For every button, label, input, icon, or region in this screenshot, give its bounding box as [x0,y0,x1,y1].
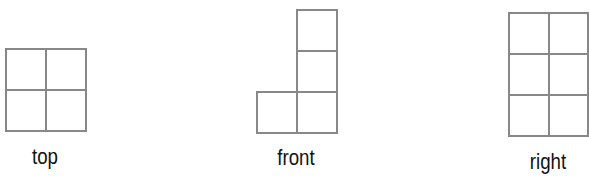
front-cell-r2-c1 [296,91,338,134]
front-cell-r0-c1 [296,9,338,52]
top-cell-r1-c1 [45,89,87,132]
right-cell-r0-c0 [508,12,550,55]
top-cell-r0-c1 [45,48,87,91]
right-cell-r0-c1 [548,12,589,55]
right-cell-r1-c0 [508,53,550,96]
right-cell-r1-c1 [548,53,589,96]
front-view-grid [256,9,338,134]
top-view-grid [5,48,87,132]
right-cell-r2-c0 [508,94,550,137]
right-view-label: right [530,151,566,173]
top-view-label: top [32,146,58,168]
front-cell-r1-c1 [296,50,338,93]
front-view-label: front [277,147,314,169]
top-cell-r0-c0 [5,48,47,91]
top-cell-r1-c0 [5,89,47,132]
front-cell-r2-c0 [256,91,298,134]
right-cell-r2-c1 [548,94,589,137]
right-view-grid [508,12,589,137]
